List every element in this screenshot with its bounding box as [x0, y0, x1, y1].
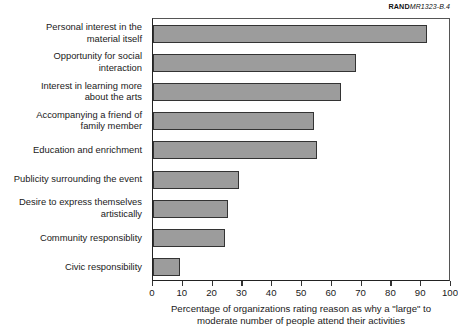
category-label: Accompanying a friend of family member	[0, 109, 142, 132]
bar-row	[153, 107, 449, 136]
category-label: Publicity surrounding the event	[0, 173, 142, 184]
x-axis-tick-label: 30	[236, 287, 247, 298]
x-axis-tick	[182, 281, 183, 286]
x-axis-tick-label: 40	[266, 287, 277, 298]
bar	[153, 112, 314, 130]
x-axis-tick-label: 100	[442, 287, 458, 298]
x-axis-tick	[331, 281, 332, 286]
x-axis-tick-label: 60	[325, 287, 336, 298]
x-axis-tick-label: 90	[415, 287, 426, 298]
bar-row	[153, 77, 449, 106]
category-label: Desire to express themselves artisticall…	[0, 196, 142, 219]
bar-row	[153, 194, 449, 223]
x-axis-tick	[241, 281, 242, 286]
x-axis-tick	[450, 281, 451, 286]
bar	[153, 200, 228, 218]
x-axis-tick	[152, 281, 153, 286]
bar	[153, 54, 356, 72]
category-axis-labels: Personal interest in the material itself…	[0, 18, 147, 281]
x-axis-tick	[212, 281, 213, 286]
x-axis-tick-label: 20	[206, 287, 217, 298]
x-axis-tick-labels: 0102030405060708090100	[0, 287, 458, 301]
x-axis-tick-label: 50	[296, 287, 307, 298]
bar-row	[153, 253, 449, 282]
x-axis-tick-label: 80	[385, 287, 396, 298]
bar-row	[153, 165, 449, 194]
category-label: Interest in learning more about the arts	[0, 80, 142, 103]
bar-row	[153, 19, 449, 48]
category-label: Opportunity for social interaction	[0, 50, 142, 73]
bar-row	[153, 48, 449, 77]
x-axis-tick	[420, 281, 421, 286]
x-axis-tick	[390, 281, 391, 286]
category-label: Education and enrichment	[0, 144, 142, 155]
bar	[153, 141, 317, 159]
bar	[153, 171, 239, 189]
bar	[153, 258, 180, 276]
x-axis-tick-label: 10	[176, 287, 187, 298]
category-label: Community responsiblity	[0, 232, 142, 243]
plot-area	[152, 18, 450, 281]
bar	[153, 25, 427, 43]
x-axis-tick	[361, 281, 362, 286]
bar-row	[153, 136, 449, 165]
category-label: Civic responsibility	[0, 261, 142, 272]
x-axis-tick-label: 0	[149, 287, 154, 298]
bar	[153, 229, 225, 247]
x-axis-tick	[301, 281, 302, 286]
x-axis-title: Percentage of organizations rating reaso…	[152, 303, 450, 326]
x-axis-tick-label: 70	[355, 287, 366, 298]
bar	[153, 83, 341, 101]
x-axis-tick	[271, 281, 272, 286]
category-label: Personal interest in the material itself	[0, 21, 142, 44]
bar-row	[153, 224, 449, 253]
